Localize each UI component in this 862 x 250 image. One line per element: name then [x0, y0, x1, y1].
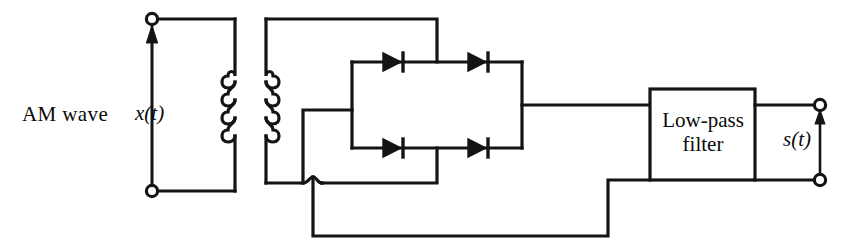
- output-voltage-arrow: [815, 110, 825, 174]
- diode-bottom-right: [468, 139, 488, 157]
- input-terminal-top: [146, 13, 157, 24]
- diode-top-left: [383, 53, 403, 71]
- diode-bottom-left: [383, 139, 403, 157]
- diode-top-right: [468, 53, 488, 71]
- circuit-diagram-canvas: AM wave x(t) s(t) Low-pass filter: [0, 0, 862, 250]
- transformer-secondary-coil: [266, 19, 279, 183]
- diode-bridge-frame: [352, 62, 522, 148]
- wire-bridge-bottom-tap: [322, 148, 437, 183]
- wire-bridge-left-node: [303, 110, 352, 183]
- output-terminal-bottom: [814, 174, 825, 185]
- wire-secondary-top-to-bridge: [266, 19, 437, 62]
- filter-label-line1: Low-pass: [662, 108, 744, 132]
- output-terminal-top: [814, 99, 825, 110]
- transformer-primary-coil: [222, 19, 235, 191]
- low-pass-filter-label: Low-pass filter: [650, 109, 756, 156]
- filter-label-line2: filter: [650, 133, 756, 157]
- input-label-am-wave: AM wave: [22, 103, 108, 127]
- input-signal-label: x(t): [135, 102, 164, 126]
- input-terminal-bottom: [146, 185, 157, 196]
- wire-feedback-return-bus: [313, 177, 650, 236]
- output-signal-label: s(t): [783, 128, 811, 152]
